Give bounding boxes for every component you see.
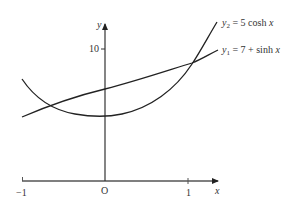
x-tick-label-origin: O <box>101 185 108 196</box>
y-tick-label-10: 10 <box>89 43 99 54</box>
x-tick-label-neg1: −1 <box>16 187 27 198</box>
legend-y1-label: y1 = 7 + sinh x <box>221 44 280 57</box>
y-axis-label: y <box>96 19 102 30</box>
series-y2-cosh-curve <box>22 22 217 116</box>
x-axis-label: x <box>214 185 220 196</box>
legend-y2-label: y2 = 5 cosh x <box>221 17 274 30</box>
series-y1-sinh-curve <box>22 50 218 117</box>
chart: y x 10 −1 O 1 y2 = 5 cosh x y1 = 7 + sin… <box>0 0 300 211</box>
x-tick-label-1: 1 <box>186 187 191 198</box>
